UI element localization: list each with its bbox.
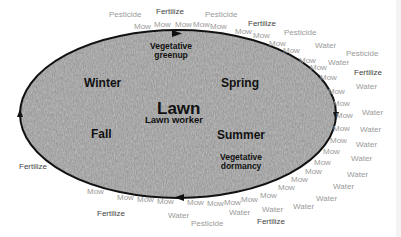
mow-label: Mow: [320, 74, 337, 82]
mow-label: Mow: [175, 21, 192, 29]
mow-label: Mow: [154, 21, 171, 29]
water-label: Water: [351, 155, 372, 163]
right-border: [396, 0, 401, 237]
water-label: Water: [356, 83, 377, 91]
mow-label: Mow: [323, 148, 340, 156]
mow-label: Mow: [260, 192, 277, 200]
mow-label: Mow: [283, 47, 300, 55]
water-label: Water: [362, 109, 383, 117]
pesticide-label: Pesticide: [191, 220, 223, 228]
mow-label: Mow: [328, 88, 345, 96]
mow-label: Mow: [207, 200, 224, 208]
pesticide-label: Pesticide: [205, 11, 237, 19]
season-spring: Spring: [221, 77, 259, 89]
mow-label: Mow: [253, 32, 270, 40]
season-fall: Fall: [91, 128, 112, 140]
water-label: Water: [293, 203, 314, 211]
fertilize-label: Fertilize: [19, 163, 47, 171]
water-label: Water: [316, 195, 337, 203]
mow-label: Mow: [336, 112, 353, 120]
season-winter: Winter: [84, 77, 121, 89]
mow-label: Mow: [193, 21, 210, 29]
phase-vegetative-dormancy: Vegetative dormancy: [220, 153, 262, 171]
mow-label: Mow: [333, 125, 350, 133]
fertilize-label: Fertilize: [97, 210, 125, 218]
fertilize-label: Fertilize: [257, 218, 285, 226]
water-label: Water: [315, 42, 336, 50]
mow-label: Mow: [333, 100, 350, 108]
center-subtitle: Lawn worker: [145, 115, 203, 125]
mow-label: Mow: [314, 159, 331, 167]
mow-label: Mow: [330, 137, 347, 145]
lawn-care-cycle-diagram: Vegetative greenup Winter Spring Fall Su…: [0, 0, 401, 237]
water-label: Water: [229, 209, 250, 217]
water-label: Water: [347, 171, 368, 179]
water-label: Water: [356, 141, 377, 149]
fertilize-label: Fertilize: [354, 69, 382, 77]
water-label: Water: [360, 126, 381, 134]
fertilize-label: Fertilize: [156, 8, 184, 16]
pesticide-label: Pesticide: [346, 50, 378, 58]
mow-label: Mow: [134, 23, 151, 31]
mow-label: Mow: [241, 196, 258, 204]
fertilize-label: Fertilize: [248, 20, 276, 28]
mow-label: Mow: [117, 194, 134, 202]
water-label: Water: [333, 183, 354, 191]
water-label: Water: [168, 212, 189, 220]
mow-label: Mow: [87, 188, 104, 196]
mow-label: Mow: [187, 199, 204, 207]
mow-label: Mow: [224, 199, 241, 207]
water-label: Water: [328, 59, 349, 67]
mow-label: Mow: [310, 64, 327, 72]
season-summer: Summer: [217, 129, 265, 141]
pesticide-label: Pesticide: [109, 11, 141, 19]
phase-vegetative-greenup: Vegetative greenup: [150, 42, 192, 60]
mow-label: Mow: [157, 198, 174, 206]
mow-label: Mow: [235, 28, 252, 36]
mow-label: Mow: [278, 184, 295, 192]
mow-label: Mow: [210, 23, 227, 31]
pesticide-label: Pesticide: [284, 29, 316, 37]
mow-label: Mow: [137, 196, 154, 204]
water-label: Water: [262, 206, 283, 214]
